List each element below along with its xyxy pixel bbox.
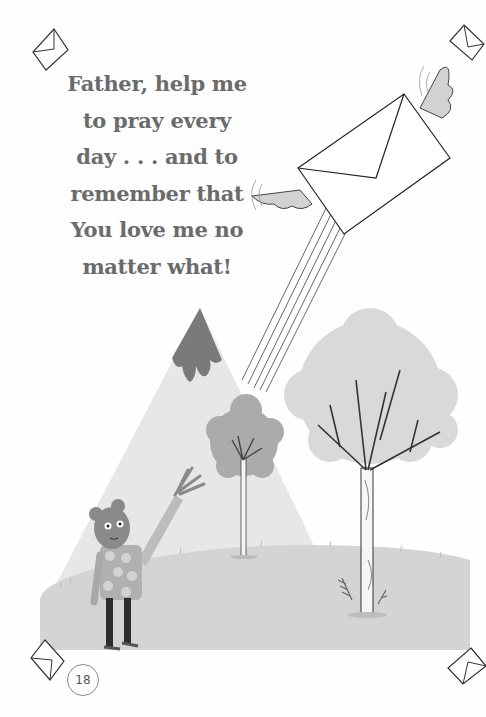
verse-line: You love me no bbox=[52, 212, 262, 249]
corner-envelope-icon-top-left bbox=[33, 29, 68, 70]
verse-line: matter what! bbox=[52, 249, 262, 286]
verse-line: day . . . and to bbox=[52, 139, 262, 176]
book-page: Father, help me to pray every day . . . … bbox=[0, 0, 486, 717]
verse-line: to pray every bbox=[52, 103, 262, 140]
corner-envelope-icon-top-right bbox=[450, 25, 484, 60]
page-number: 18 bbox=[67, 664, 99, 696]
prayer-verse: Father, help me to pray every day . . . … bbox=[52, 66, 262, 285]
corner-envelope-icon-bottom-right bbox=[448, 648, 486, 684]
winged-envelope bbox=[252, 66, 454, 234]
verse-line: remember that bbox=[52, 176, 262, 213]
verse-line: Father, help me bbox=[52, 66, 262, 103]
